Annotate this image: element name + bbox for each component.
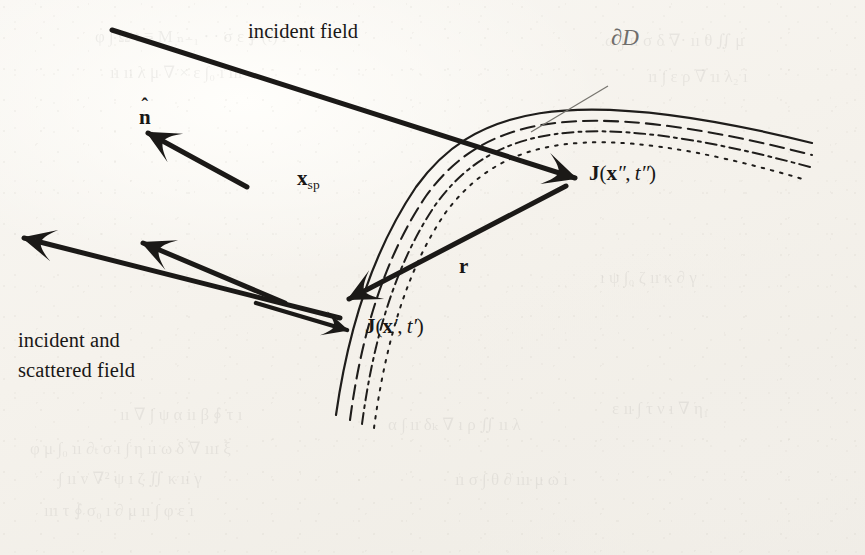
current-J-symbol: J [589, 161, 600, 185]
position-symbol: x [383, 314, 394, 338]
paren-open: ( [600, 161, 607, 185]
separation-vector-r [349, 186, 566, 299]
separation-vector-symbol: r [459, 254, 468, 278]
specular-point-symbol: x [297, 166, 308, 190]
specular-point-subscript: sp [308, 177, 321, 192]
paren-open: ( [376, 314, 383, 338]
position-symbol: x [607, 161, 618, 185]
incident-ray [112, 30, 575, 178]
current-density-single-prime-label: J(x′, t′) [365, 316, 424, 337]
boundary-symbol: ∂D [611, 25, 639, 50]
current-J-symbol: J [365, 314, 376, 338]
comma: , [625, 161, 634, 185]
normal-vector [148, 133, 247, 187]
figure-canvas: φ ∫ Ω t ≡ M ₙ₋₁ ⋅ · σ ε ∮ (t) ııı ıı λ μ… [0, 0, 865, 555]
scattered-ray-lower [24, 238, 340, 318]
scattered-field-label-line1: incident and [18, 330, 120, 351]
current-density-double-prime-label: J(x″, t″) [589, 163, 656, 184]
normal-symbol: n [139, 105, 151, 129]
comma: , [397, 314, 406, 338]
layer-dash-dot [362, 131, 810, 424]
paren-close: ) [417, 314, 424, 338]
paren-close: ) [649, 161, 656, 185]
layer-dotted [374, 142, 806, 428]
diagram-artwork [0, 0, 865, 555]
scattered-field-label-line2: scattered field [18, 360, 135, 381]
layer-long-dash [350, 121, 812, 420]
normal-vector-label: n ̂ [139, 107, 151, 128]
specular-point-label: xsp [297, 168, 320, 191]
time-double-prime: ″ [641, 161, 649, 185]
incident-field-label: incident field [248, 21, 358, 42]
surface-solid [336, 109, 812, 415]
boundary-label: ∂D [611, 26, 639, 49]
separation-vector-label: r [459, 256, 468, 277]
